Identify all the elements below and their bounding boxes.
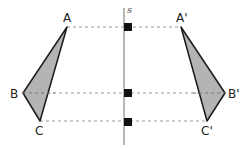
- label-a-prime: A': [176, 11, 188, 25]
- triangle-a-b-c-prime: [181, 27, 225, 121]
- label-c-prime: C': [201, 124, 213, 138]
- label-b-prime: B': [228, 87, 240, 101]
- label-b: B: [10, 87, 18, 101]
- right-angle-marker-a: [124, 23, 132, 31]
- triangle-abc: [23, 27, 67, 121]
- right-angle-marker-c: [124, 118, 132, 126]
- reflection-diagram: s A B C A' B' C': [0, 0, 247, 150]
- axis-label: s: [127, 4, 132, 15]
- right-angle-marker-b: [124, 89, 132, 97]
- label-a: A: [63, 11, 72, 25]
- label-c: C: [35, 124, 43, 138]
